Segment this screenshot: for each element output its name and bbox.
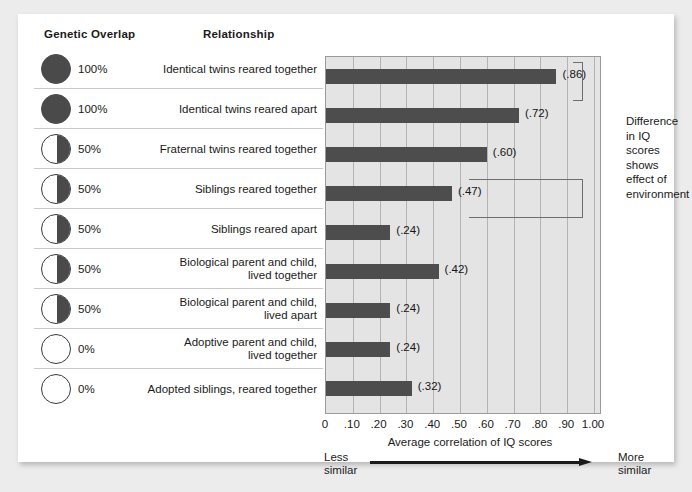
table-row: 50%Fraternal twins reared together [34, 129, 323, 169]
bar-row: (.24) [326, 213, 602, 252]
bar-value-label: (.32) [418, 380, 442, 392]
x-tick-label: 0 [322, 418, 328, 430]
figure-card: Genetic Overlap Relationship 100%Identic… [18, 14, 674, 462]
bracket-identical-twins [573, 62, 583, 101]
half-circle-icon [41, 174, 71, 204]
relationship-row-list: 100%Identical twins reared together100%I… [34, 49, 323, 408]
table-row: 100%Identical twins reared apart [34, 89, 323, 129]
genetic-overlap-cell [41, 294, 71, 324]
bar-row: (.24) [326, 291, 602, 330]
genetic-overlap-percent: 50% [78, 183, 101, 195]
x-tick-label: .30 [397, 418, 413, 430]
arrow-shaft [370, 461, 579, 464]
table-row: 50%Siblings reared together [34, 169, 323, 209]
bar [326, 147, 487, 162]
bar-row: (.72) [326, 96, 602, 135]
x-tick-label: .50 [451, 418, 467, 430]
relationship-label: Biological parent and child, lived toget… [180, 256, 317, 282]
bar-value-label: (.24) [396, 224, 420, 236]
bar-row: (.32) [326, 369, 602, 408]
genetic-overlap-percent: 50% [78, 143, 101, 155]
empty-circle-icon [41, 334, 71, 364]
bar-value-label: (.60) [493, 146, 517, 158]
bar-row: (.60) [326, 135, 602, 174]
full-circle-icon [41, 54, 71, 84]
column-header-relationship: Relationship [203, 28, 274, 40]
half-circle-icon [41, 134, 71, 164]
table-row: 50%Siblings reared apart [34, 209, 323, 249]
table-row: 0%Adopted siblings, reared together [34, 369, 323, 408]
arrow-head [579, 458, 592, 466]
bar-value-label: (.42) [445, 263, 469, 275]
x-tick-label: .80 [531, 418, 547, 430]
bar-value-label: (.24) [396, 302, 420, 314]
table-row: 50%Biological parent and child, lived to… [34, 249, 323, 289]
axis-label-more-similar: More similar [618, 451, 651, 477]
genetic-overlap-cell [41, 54, 71, 84]
x-axis-tick-labels: 0.10.20.30.40.50.60.70.80.901.00 [325, 418, 601, 434]
genetic-overlap-cell [41, 134, 71, 164]
similarity-arrow-icon [370, 458, 592, 467]
bar-chart-plot-area: (.86)(.72)(.60)(.47)(.24)(.42)(.24)(.24)… [325, 56, 601, 414]
bar [326, 342, 390, 357]
bar [326, 186, 452, 201]
relationship-label: Biological parent and child, lived apart [180, 296, 317, 322]
genetic-overlap-percent: 0% [78, 383, 95, 395]
x-tick-label: 1.00 [582, 418, 604, 430]
axis-label-less-similar: Less similar [324, 451, 357, 477]
half-circle-icon [41, 254, 71, 284]
x-tick-label: .20 [371, 418, 387, 430]
relationship-label: Adopted siblings, reared together [148, 382, 317, 395]
column-header-genetic-overlap: Genetic Overlap [44, 28, 135, 40]
genetic-overlap-cell [41, 214, 71, 244]
half-circle-icon [41, 214, 71, 244]
table-row: 0%Adoptive parent and child, lived toget… [34, 329, 323, 369]
half-circle-icon [41, 294, 71, 324]
empty-circle-icon [41, 374, 71, 404]
relationship-label: Fraternal twins reared together [160, 142, 317, 155]
table-row: 50%Biological parent and child, lived ap… [34, 289, 323, 329]
genetic-overlap-percent: 50% [78, 303, 101, 315]
x-tick-label: .70 [505, 418, 521, 430]
x-tick-label: .40 [424, 418, 440, 430]
genetic-overlap-percent: 100% [78, 103, 107, 115]
genetic-overlap-percent: 50% [78, 223, 101, 235]
figure-page: Genetic Overlap Relationship 100%Identic… [0, 0, 692, 492]
bar [326, 69, 556, 84]
environment-effect-annotation: Difference in IQ scores shows effect of … [626, 114, 692, 201]
bar [326, 225, 390, 240]
relationship-label: Siblings reared together [195, 182, 317, 195]
bar [326, 381, 412, 396]
genetic-overlap-percent: 100% [78, 63, 107, 75]
genetic-overlap-cell [41, 254, 71, 284]
bar [326, 264, 439, 279]
table-row: 100%Identical twins reared together [34, 49, 323, 89]
x-tick-label: .10 [344, 418, 360, 430]
genetic-overlap-cell [41, 374, 71, 404]
bar-row: (.24) [326, 330, 602, 369]
full-circle-icon [41, 94, 71, 124]
bar [326, 303, 390, 318]
bar-row: (.86) [326, 57, 602, 96]
x-tick-label: .60 [478, 418, 494, 430]
bar-value-label: (.72) [525, 107, 549, 119]
genetic-overlap-percent: 50% [78, 263, 101, 275]
bar-row: (.42) [326, 252, 602, 291]
bracket-siblings [469, 179, 583, 218]
genetic-overlap-cell [41, 174, 71, 204]
relationship-label: Identical twins reared together [163, 62, 317, 75]
relationship-label: Identical twins reared apart [179, 102, 317, 115]
bar [326, 108, 519, 123]
relationship-label: Siblings reared apart [211, 222, 317, 235]
genetic-overlap-cell [41, 94, 71, 124]
genetic-overlap-percent: 0% [78, 343, 95, 355]
relationship-label: Adoptive parent and child, lived togethe… [184, 336, 317, 362]
x-axis-title: Average correlation of IQ scores [350, 436, 590, 448]
x-tick-label: .90 [558, 418, 574, 430]
bar-value-label: (.24) [396, 341, 420, 353]
genetic-overlap-cell [41, 334, 71, 364]
